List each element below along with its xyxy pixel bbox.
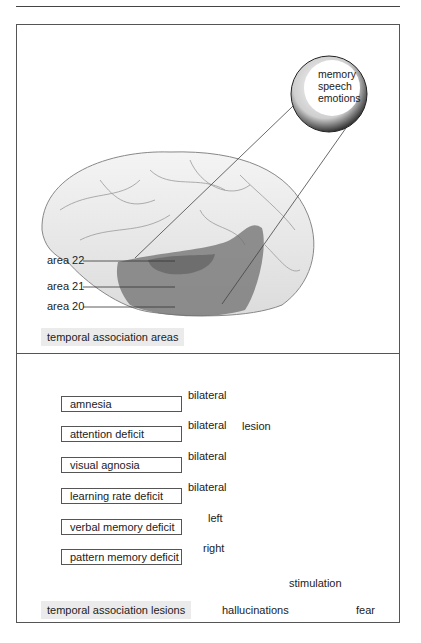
panel-label-lesions: temporal association lesions xyxy=(41,601,191,619)
stimulation-label: stimulation xyxy=(289,577,342,589)
deficit-box-attention: attention deficit xyxy=(61,426,182,442)
deficit-box-learning-rate: learning rate deficit xyxy=(61,488,182,504)
lesion-label: lesion xyxy=(242,420,271,432)
side-label-attention: bilateral xyxy=(188,419,227,431)
side-label-pattern-memory: right xyxy=(203,542,224,554)
panel-label-areas: temporal association areas xyxy=(41,328,184,346)
side-label-learning-rate: bilateral xyxy=(188,481,227,493)
deficit-box-visual-agnosia: visual agnosia xyxy=(61,457,182,473)
callout-text: memory speech emotions xyxy=(318,68,361,104)
side-label-verbal-memory: left xyxy=(208,512,223,524)
deficit-box-amnesia: amnesia xyxy=(61,396,182,412)
side-label-amnesia: bilateral xyxy=(188,389,227,401)
area-22-label: area 22 xyxy=(47,254,84,266)
area-20-label: area 20 xyxy=(47,300,84,312)
deficit-box-verbal-memory: verbal memory deficit xyxy=(61,519,182,535)
side-label-visual-agnosia: bilateral xyxy=(188,450,227,462)
outcome-hallucinations: hallucinations xyxy=(222,604,289,616)
area-21-label: area 21 xyxy=(47,280,84,292)
outcome-fear: fear xyxy=(356,604,375,616)
deficit-box-pattern-memory: pattern memory deficit xyxy=(61,549,182,565)
